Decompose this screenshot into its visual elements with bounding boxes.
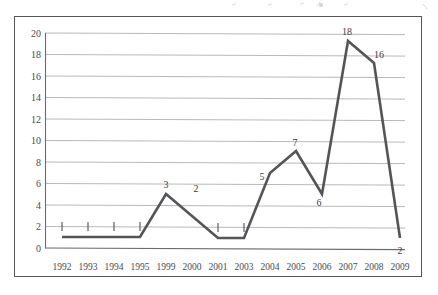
y-tick-label: 10 xyxy=(31,135,41,146)
x-tick-label: 2008 xyxy=(365,262,384,272)
y-axis-tick-labels: 20 18 16 14 12 10 8 6 4 2 0 xyxy=(31,28,41,254)
data-label-2005: 7 xyxy=(293,137,298,148)
data-label-2007: 18 xyxy=(342,26,352,37)
x-tick-label: 2009 xyxy=(391,262,410,272)
x-tick-label: 1992 xyxy=(53,262,72,272)
y-tick-label: 2 xyxy=(36,221,41,232)
x-tick-label: 2003 xyxy=(235,262,254,272)
y-tick-label: 0 xyxy=(36,243,41,254)
line-chart: 20 18 16 14 12 10 8 6 4 2 0 3 2 xyxy=(0,0,438,295)
y-tick-label: 6 xyxy=(36,178,41,189)
x-tick-label: 1994 xyxy=(105,262,124,272)
x-tick-label: 1993 xyxy=(79,262,98,272)
chart-svg: 20 18 16 14 12 10 8 6 4 2 0 3 2 xyxy=(0,0,438,295)
data-label-2006: 6 xyxy=(317,197,322,208)
x-tick-label: 2007 xyxy=(339,262,358,272)
x-tick-label: 2000 xyxy=(183,262,202,272)
y-tick-label: 8 xyxy=(36,157,41,168)
x-tick-label: 1995 xyxy=(131,262,150,272)
y-tick-label: 16 xyxy=(31,71,41,82)
data-label-2009: 2 xyxy=(398,245,403,256)
data-label-1999: 3 xyxy=(164,179,169,190)
gridlines xyxy=(45,33,405,250)
y-tick-label: 12 xyxy=(31,114,41,125)
y-tick-label: 4 xyxy=(36,200,41,211)
y-tick-label: 20 xyxy=(31,28,41,39)
x-tick-label: 2004 xyxy=(261,262,280,272)
x-tick-label: 1999 xyxy=(157,262,176,272)
y-tick-label: 14 xyxy=(31,92,41,103)
x-tick-label: 2001 xyxy=(209,262,228,272)
y-tick-label: 18 xyxy=(31,49,41,60)
data-label-2000: 2 xyxy=(194,183,199,194)
x-axis-tick-labels: 1992 1993 1994 1995 1999 2000 2001 2003 … xyxy=(53,262,410,272)
data-label-2008: 16 xyxy=(374,49,384,60)
x-tick-label: 2005 xyxy=(287,262,306,272)
series-1-line xyxy=(62,41,400,238)
x-tick-label: 2006 xyxy=(313,262,332,272)
data-label-2004: 5 xyxy=(260,171,265,182)
